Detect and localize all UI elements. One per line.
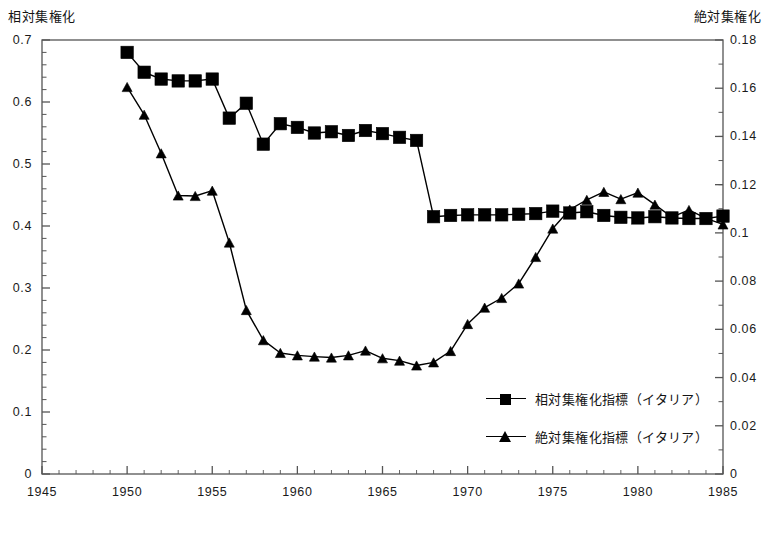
y2-axis-tick-label: 0: [730, 467, 738, 481]
x-axis-tick-label: 1950: [112, 485, 142, 499]
series-absolute: [122, 82, 728, 370]
data-point-square: [376, 127, 388, 139]
series-line: [127, 87, 723, 365]
y2-axis-tick-label: 0.04: [730, 371, 757, 385]
y2-axis-tick-label: 0.18: [730, 33, 757, 47]
triangle-marker-icon: [486, 430, 526, 444]
x-axis-tick-label: 1975: [538, 485, 568, 499]
plot-canvas: [0, 0, 767, 539]
x-axis-tick-label: 1955: [197, 485, 227, 499]
square-marker-icon: [486, 392, 526, 406]
data-point-square: [172, 75, 184, 87]
right-axis-title: 絶対集権化: [694, 6, 762, 25]
data-point-triangle: [599, 187, 609, 196]
data-point-triangle: [122, 82, 132, 91]
y-axis-tick-label: 0.1: [0, 405, 32, 419]
data-point-square: [598, 209, 610, 221]
data-point-square: [240, 97, 252, 109]
legend-label-relative: 相対集権化指標（イタリア）: [535, 389, 708, 408]
data-point-triangle: [633, 188, 643, 197]
y2-axis-tick-label: 0.06: [730, 322, 757, 336]
data-point-square: [444, 209, 456, 221]
y-axis-tick-label: 0.6: [0, 95, 32, 109]
data-point-square: [615, 211, 627, 223]
data-point-triangle: [258, 336, 268, 345]
data-point-square: [359, 124, 371, 136]
data-point-square: [121, 46, 133, 58]
data-point-triangle: [446, 346, 456, 355]
y-axis-tick-label: 0.5: [0, 157, 32, 171]
data-point-square: [325, 126, 337, 138]
data-point-square: [478, 209, 490, 221]
legend-item-absolute: 絶対集権化指標（イタリア）: [486, 427, 708, 446]
axes-layer: [42, 40, 723, 474]
data-point-square: [206, 73, 218, 85]
data-point-triangle: [514, 279, 524, 288]
y-axis-tick-label: 0.3: [0, 281, 32, 295]
series-relative: [121, 46, 729, 225]
data-point-square: [308, 127, 320, 139]
x-axis-tick-label: 1985: [708, 485, 738, 499]
x-axis-tick-label: 1970: [453, 485, 483, 499]
y2-axis-tick-label: 0.02: [730, 419, 757, 433]
y-axis-tick-label: 0.4: [0, 219, 32, 233]
data-point-square: [410, 134, 422, 146]
data-point-square: [513, 208, 525, 220]
chart-figure: 相対集権化 絶対集権化 00.10.20.30.40.50.60.700.020…: [0, 0, 767, 539]
y-axis-tick-label: 0.7: [0, 33, 32, 47]
y2-axis-tick-label: 0.12: [730, 178, 757, 192]
data-point-square: [393, 131, 405, 143]
legend-item-relative: 相対集権化指標（イタリア）: [486, 389, 708, 408]
left-axis-title: 相対集権化: [8, 6, 76, 25]
data-point-square: [461, 209, 473, 221]
data-point-triangle: [616, 195, 626, 204]
y2-axis-tick-label: 0.1: [730, 226, 749, 240]
plot-frame: [42, 40, 723, 474]
data-point-triangle: [684, 205, 694, 214]
data-point-square: [257, 138, 269, 150]
data-point-square: [155, 73, 167, 85]
data-point-square: [547, 205, 559, 217]
data-point-triangle: [531, 252, 541, 261]
data-point-triangle: [582, 195, 592, 204]
data-point-triangle: [207, 186, 217, 195]
data-point-square: [495, 209, 507, 221]
data-point-square: [291, 121, 303, 133]
data-point-triangle: [139, 110, 149, 119]
y2-axis-tick-label: 0.14: [730, 129, 757, 143]
data-point-triangle: [360, 346, 370, 355]
y-axis-tick-label: 0.2: [0, 343, 32, 357]
data-point-square: [342, 129, 354, 141]
data-point-triangle: [241, 305, 251, 314]
data-point-square: [189, 75, 201, 87]
x-axis-tick-label: 1980: [623, 485, 653, 499]
data-point-square: [274, 118, 286, 130]
y2-axis-tick-label: 0.16: [730, 81, 757, 95]
data-point-square: [427, 211, 439, 223]
y-axis-tick-label: 0: [0, 467, 32, 481]
data-point-square: [138, 66, 150, 78]
x-axis-tick-label: 1945: [27, 485, 57, 499]
data-point-triangle: [224, 238, 234, 247]
y2-axis-tick-label: 0.08: [730, 274, 757, 288]
data-point-triangle: [480, 303, 490, 312]
data-point-square: [649, 211, 661, 223]
series-layer: [121, 46, 729, 370]
data-point-square: [223, 112, 235, 124]
data-point-square: [581, 206, 593, 218]
x-axis-tick-label: 1965: [367, 485, 397, 499]
data-point-square: [632, 212, 644, 224]
data-point-triangle: [156, 149, 166, 158]
x-axis-tick-label: 1960: [282, 485, 312, 499]
legend-label-absolute: 絶対集権化指標（イタリア）: [535, 427, 708, 446]
data-point-square: [530, 207, 542, 219]
